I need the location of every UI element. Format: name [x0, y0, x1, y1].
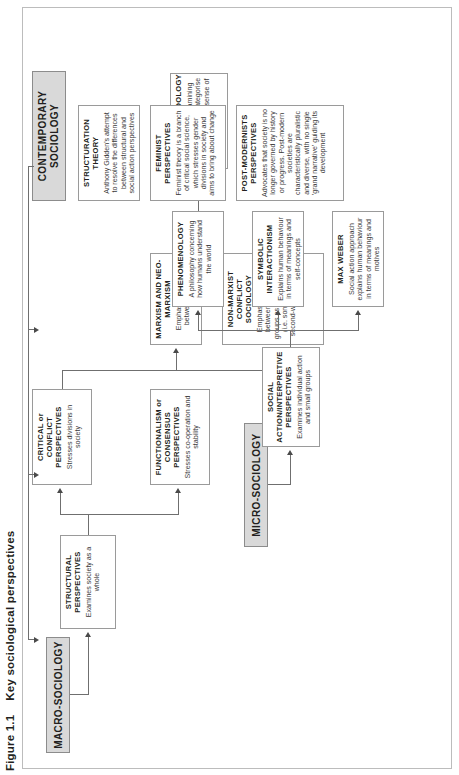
box-structural-perspectives: STRUCTURAL PERSPECTIVES Examines society… — [60, 535, 116, 629]
connector-macro-stem — [70, 694, 89, 695]
box-social-action: SOCIAL ACTION/INTERPRETIVE PERSPECTIVES … — [262, 347, 320, 447]
box-structuration-theory: STRUCTURATION THEORY Anthony Gidden's at… — [78, 105, 140, 201]
connector-structural-bus — [60, 514, 178, 515]
section-header-contemporary-label: CONTEMPORARY SOCIOLOGY — [37, 91, 61, 182]
arrowhead-weber — [355, 310, 361, 315]
arrowhead-structuration — [34, 638, 39, 644]
box-feminist-perspectives: FEMINIST PERSPECTIVES Feminist theory is… — [150, 105, 226, 201]
box-symbolic-heading: SYMBOLIC INTERACTIONISM — [257, 215, 275, 303]
box-symbolic-interactionism: SYMBOLIC INTERACTIONISM Explains human b… — [252, 211, 304, 307]
arrowhead-marxism — [173, 348, 179, 353]
box-functionalism-body: Stresses co-operation and stability — [184, 393, 201, 481]
connector-to-symbolic — [278, 313, 279, 331]
box-conflict-heading: CRITICAL or CONFLICT PERSPECTIVES — [37, 393, 64, 481]
connector-to-functionalism — [178, 491, 179, 515]
connector-micro-socialaction — [290, 453, 291, 485]
box-functionalism-perspectives: FUNCTIONALISM or CONSENSUS PERSPECTIVES … — [150, 389, 210, 485]
box-structuration-body: Anthony Gidden's attempt to resolve the … — [103, 109, 136, 197]
box-postmodern-heading: POST-MODERNISTS PERSPECTIVES — [241, 109, 259, 197]
box-marxism-heading: MARXISM AND NEO-MARXISM — [155, 257, 173, 341]
connector-micro-stem — [268, 484, 290, 485]
arrowhead-functionalism — [175, 488, 181, 493]
section-header-contemporary: CONTEMPORARY SOCIOLOGY — [32, 71, 66, 201]
box-phenomenology: PHENOMENOLOGY A philosophy concerning ho… — [172, 211, 224, 307]
arrowhead-structural — [85, 632, 91, 637]
arrowhead-postmodern — [34, 328, 39, 334]
connector-macro-structural — [88, 635, 89, 695]
box-social-action-heading: SOCIAL ACTION/INTERPRETIVE PERSPECTIVES — [267, 351, 294, 443]
box-postmodern-perspectives: POST-MODERNISTS PERSPECTIVES Advocates t… — [236, 105, 344, 201]
box-feminist-heading: FEMINIST PERSPECTIVES — [155, 109, 173, 197]
box-nonmarxist-heading: NON-MARXIST CONFLICT SOCIOLOGY — [227, 257, 254, 341]
box-functionalism-heading: FUNCTIONALISM or CONSENSUS PERSPECTIVES — [155, 393, 182, 481]
arrowhead-socialaction — [287, 450, 293, 455]
box-structural-heading: STRUCTURAL PERSPECTIVES — [65, 539, 83, 625]
connector-conflict-bus — [62, 370, 274, 371]
box-conflict-perspectives: CRITICAL or CONFLICT PERSPECTIVES Stress… — [32, 389, 92, 485]
arrowhead-phenomenology — [195, 310, 201, 315]
connector-to-phenomenology — [198, 313, 199, 331]
arrowhead-conflict — [57, 488, 63, 493]
figure-caption: Figure 1.1Key sociological perspectives — [4, 531, 16, 771]
box-weber-body: Social action approach explains human be… — [348, 215, 381, 303]
box-structural-body: Examines society as a whole — [85, 539, 102, 625]
connector-contemporary-bus — [28, 166, 29, 640]
figure-canvas: Figure 1.1Key sociological perspectives … — [0, 0, 459, 775]
section-header-macro: MACRO-SOCIOLOGY — [46, 637, 70, 753]
connector-structural-out — [88, 515, 89, 535]
box-conflict-body: Stresses divisions in society — [66, 393, 83, 481]
connector-conflict-out — [62, 371, 63, 389]
box-max-weber: MAX WEBER Social action approach explain… — [332, 211, 384, 307]
connector-to-conflict — [60, 491, 61, 515]
box-weber-heading: MAX WEBER — [337, 215, 346, 303]
connector-to-weber — [358, 313, 359, 331]
box-social-action-body: Examines individual action and small gro… — [296, 351, 313, 443]
box-symbolic-body: Explains human behaviour in terms of mea… — [277, 215, 302, 303]
box-feminist-body: Feminist theory is a branch of critical … — [175, 109, 217, 197]
arrowhead-feminist — [34, 473, 39, 479]
box-phenomenology-body: A philosophy concerning how humans under… — [188, 215, 213, 303]
connector-socialaction-out — [290, 331, 291, 347]
figure-title: Key sociological perspectives — [4, 531, 16, 701]
arrowhead-symbolic — [275, 310, 281, 315]
box-structuration-heading: STRUCTURATION THEORY — [83, 109, 101, 197]
box-phenomenology-heading: PHENOMENOLOGY — [177, 215, 186, 303]
connector-to-marxism — [176, 351, 177, 371]
box-postmodern-body: Advocates that society is no longer gove… — [261, 109, 328, 197]
figure-number: Figure 1.1 — [4, 715, 16, 771]
